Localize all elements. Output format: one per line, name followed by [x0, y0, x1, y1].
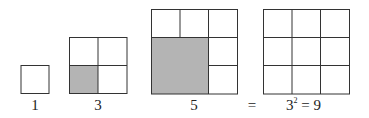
grid-3x3-shaded: [152, 10, 238, 95]
label-five: 5: [188, 97, 200, 114]
result-base: 3: [286, 97, 294, 113]
equals-sign: =: [245, 97, 259, 114]
result-exponent: 2: [294, 96, 298, 105]
grid-3x3-result: [264, 10, 350, 95]
result-value: = 9: [298, 97, 321, 113]
label-one: 1: [29, 97, 41, 114]
label-three: 3: [92, 97, 104, 114]
label-result: 32 = 9: [286, 97, 321, 114]
grid-2x2: [70, 38, 128, 94]
